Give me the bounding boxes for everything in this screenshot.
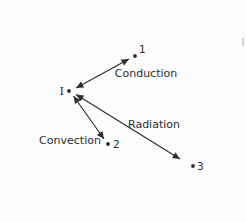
point-2-dot — [106, 142, 110, 146]
convection-label: Convection — [39, 134, 101, 147]
point-1-dot — [133, 54, 137, 58]
point-2-label: 2 — [113, 138, 120, 150]
point-1-label: 1 — [139, 43, 146, 55]
point-3-label: 3 — [197, 160, 204, 172]
heat-transfer-diagram: I 1 2 3 Conduction Convection Radiation — [0, 0, 246, 222]
conduction-label: Conduction — [115, 67, 177, 80]
point-3-dot — [191, 164, 195, 168]
diagram-canvas: I 1 2 3 Conduction Convection Radiation — [0, 0, 246, 222]
point-I-dot — [67, 89, 71, 93]
radiation-label: Radiation — [128, 118, 180, 131]
point-I-label: I — [59, 84, 64, 98]
